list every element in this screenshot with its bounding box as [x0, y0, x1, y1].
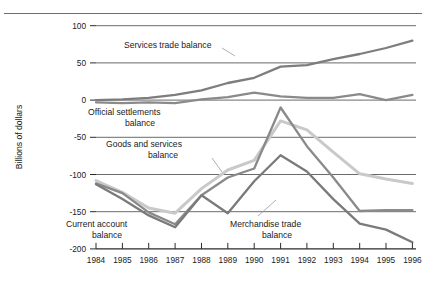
annotation-services-line1: Services trade balance — [124, 40, 212, 50]
y-tick-marks — [90, 26, 96, 249]
x-tick-labels: 1984 1985 1986 1987 1988 1989 1990 1991 … — [87, 255, 422, 265]
x-tick-marks — [96, 243, 412, 249]
leader-line-services — [222, 48, 235, 56]
x-label-1989: 1989 — [219, 255, 238, 265]
annotation-official-line2: balance — [125, 118, 155, 128]
annotation-current-account-balance: Current account balance — [66, 219, 128, 240]
annotation-goods-line2: balance — [148, 150, 178, 160]
x-label-1986: 1986 — [139, 255, 158, 265]
x-label-1996: 1996 — [403, 255, 422, 265]
annotation-merchandise-trade-balance: Merchandise trade balance — [230, 219, 301, 240]
y-axis-title: Billions of dollars — [14, 105, 24, 169]
y-label-neg100: -100 — [69, 170, 86, 180]
annotation-services-trade-balance: Services trade balance — [124, 40, 212, 50]
x-label-1993: 1993 — [324, 255, 343, 265]
leader-line-merchandise — [258, 200, 276, 216]
annotation-merchandise-line1: Merchandise trade — [230, 219, 301, 229]
x-label-1987: 1987 — [166, 255, 185, 265]
annotation-current-line1: Current account — [66, 219, 128, 229]
x-label-1995: 1995 — [377, 255, 396, 265]
chart-figure: 100 50 0 -50 -100 -150 -200 Billions of … — [0, 0, 426, 295]
x-label-1984: 1984 — [87, 255, 106, 265]
annotation-official-settlements-balance: Official settlements balance — [88, 107, 160, 128]
x-label-1994: 1994 — [350, 255, 369, 265]
x-label-1985: 1985 — [113, 255, 132, 265]
y-label-50: 50 — [77, 58, 87, 68]
y-label-100: 100 — [72, 21, 86, 31]
annotation-goods-and-services-balance: Goods and services balance — [106, 139, 182, 160]
x-label-1990: 1990 — [245, 255, 264, 265]
x-label-1992: 1992 — [298, 255, 317, 265]
line-chart-canvas: 100 50 0 -50 -100 -150 -200 Billions of … — [0, 0, 426, 295]
y-label-0: 0 — [81, 95, 86, 105]
y-label-neg50: -50 — [74, 132, 86, 142]
annotation-current-line2: balance — [92, 230, 122, 240]
y-label-neg150: -150 — [69, 207, 86, 217]
annotation-goods-line1: Goods and services — [106, 139, 182, 149]
x-label-1991: 1991 — [271, 255, 290, 265]
annotation-merchandise-line2: balance — [262, 230, 292, 240]
y-label-neg200: -200 — [69, 244, 86, 254]
x-label-1988: 1988 — [192, 255, 211, 265]
leader-line-goods — [212, 158, 222, 172]
annotation-official-line1: Official settlements — [88, 107, 160, 117]
